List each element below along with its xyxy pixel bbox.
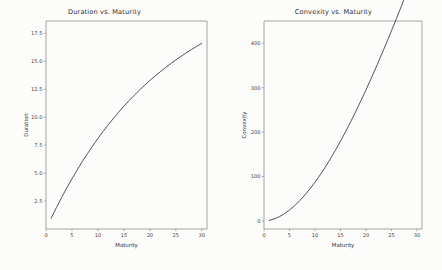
y-tick-label: 17.5 — [31, 30, 42, 36]
y-tick-label: 7.5 — [34, 142, 42, 148]
axis-spines — [46, 21, 207, 229]
x-tick-label: 10 — [95, 232, 101, 238]
y-axis-title: Convexity — [241, 111, 248, 139]
data-curve-duration — [51, 43, 202, 218]
x-tick-label: 30 — [414, 232, 420, 238]
axis-spines-top-right — [264, 21, 422, 229]
y-axis-title: Duration — [23, 113, 29, 136]
y-tick-label: 400 — [251, 40, 261, 46]
x-tick-label: 25 — [388, 232, 394, 238]
x-tick-label: 10 — [312, 232, 318, 238]
x-tick-label: 0 — [44, 232, 47, 238]
x-axis-title: Maturity — [115, 242, 138, 249]
x-axis-title: Maturity — [332, 242, 355, 249]
y-tick-label: 15.0 — [31, 58, 42, 64]
x-tick-label: 25 — [173, 232, 179, 238]
data-curve-convexity — [269, 0, 417, 220]
y-tick-label: 100 — [251, 173, 261, 179]
figure-canvas: Duration vs. Maturity 0510152025302.55.0… — [0, 0, 442, 270]
axis-spines-top-right — [46, 21, 207, 229]
y-tick-label: 200 — [251, 129, 261, 135]
y-tick-label: 0 — [257, 218, 260, 224]
x-tick-label: 20 — [147, 232, 153, 238]
subplot-convexity: Convexity vs. Maturity 05101520253001002… — [221, 0, 442, 270]
duration-plot-svg: 0510152025302.55.07.510.012.515.017.5Mat… — [0, 0, 221, 270]
axis-spines — [264, 21, 422, 229]
y-tick-label: 5.0 — [34, 170, 42, 176]
x-tick-label: 5 — [70, 232, 73, 238]
x-tick-label: 15 — [337, 232, 343, 238]
x-tick-label: 20 — [363, 232, 369, 238]
y-tick-label: 2.5 — [34, 198, 42, 204]
y-tick-label: 10.0 — [31, 114, 42, 120]
convexity-plot-svg: 0510152025300100200300400MaturityConvexi… — [221, 0, 442, 270]
y-tick-label: 300 — [251, 85, 261, 91]
y-tick-label: 12.5 — [31, 86, 42, 92]
subplot-duration: Duration vs. Maturity 0510152025302.55.0… — [0, 0, 221, 270]
x-tick-label: 15 — [121, 232, 127, 238]
x-tick-label: 0 — [262, 232, 265, 238]
x-tick-label: 5 — [288, 232, 291, 238]
x-tick-label: 30 — [199, 232, 205, 238]
